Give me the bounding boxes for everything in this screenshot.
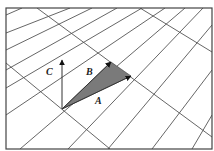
vector-label-a: A (94, 95, 102, 106)
vector-diagram: C B A (0, 0, 214, 151)
vector-label-c: C (46, 66, 53, 77)
grid-line-rising (68, 8, 203, 149)
grid-line-rising (6, 8, 70, 33)
grid-line-rising (6, 8, 22, 15)
grid-line-rising (152, 70, 212, 149)
grid-line-rising (108, 25, 212, 149)
grid-line-rising (192, 115, 212, 149)
vector-label-b: B (85, 66, 93, 77)
grid-line-falling (140, 8, 212, 52)
grid-line-falling (6, 63, 110, 149)
